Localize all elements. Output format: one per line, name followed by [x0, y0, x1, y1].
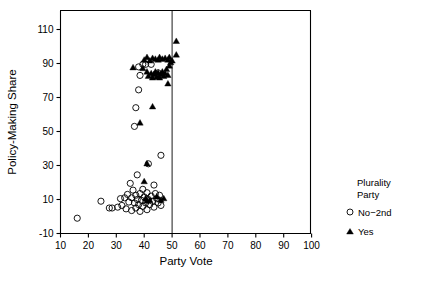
legend-label-no2nd: No−2nd — [358, 207, 392, 218]
y-tick-label: 70 — [42, 92, 54, 103]
x-tick-label: 30 — [111, 240, 123, 251]
series-no2nd-points — [74, 61, 164, 221]
data-point-no2nd — [119, 202, 125, 208]
x-tick-label: 20 — [83, 240, 95, 251]
data-point-yes — [149, 103, 155, 109]
x-tick-label: 80 — [250, 240, 262, 251]
y-tick-label: 50 — [42, 126, 54, 137]
data-point-yes — [173, 38, 179, 44]
data-point-yes — [173, 52, 179, 58]
y-axis-title: Policy-Making Share — [6, 69, 18, 174]
plot-canvas: 102030405060708090100 -101030507090110 P… — [0, 0, 421, 291]
data-point-yes — [137, 120, 143, 126]
data-point-no2nd — [117, 196, 123, 202]
x-axis-ticks: 102030405060708090100 — [55, 234, 320, 251]
x-tick-label: 40 — [139, 240, 151, 251]
data-point-no2nd — [127, 180, 133, 186]
legend-marker-no2nd-icon — [347, 209, 353, 215]
y-tick-label: 110 — [38, 24, 54, 35]
data-point-no2nd — [74, 215, 80, 221]
y-tick-label: -10 — [39, 228, 54, 239]
y-axis-ticks: -101030507090110 — [38, 24, 61, 239]
data-point-no2nd — [134, 172, 140, 178]
y-tick-label: 30 — [42, 160, 54, 171]
data-point-no2nd — [136, 87, 142, 93]
y-tick-label: 10 — [42, 194, 54, 205]
x-tick-label: 10 — [55, 240, 67, 251]
data-point-no2nd — [131, 123, 137, 129]
x-tick-label: 60 — [194, 240, 206, 251]
legend-marker-yes-icon — [347, 229, 354, 235]
legend: Plurality Party No−2nd Yes — [347, 177, 392, 237]
scatter-plot-figure: 102030405060708090100 -101030507090110 P… — [0, 0, 421, 291]
x-tick-label: 100 — [303, 240, 320, 251]
data-point-no2nd — [151, 182, 157, 188]
data-point-yes — [141, 178, 147, 184]
data-point-no2nd — [133, 105, 139, 111]
x-tick-label: 50 — [167, 240, 179, 251]
x-tick-label: 90 — [278, 240, 290, 251]
x-tick-label: 70 — [222, 240, 234, 251]
x-axis-title: Party Vote — [159, 255, 212, 267]
data-point-no2nd — [137, 72, 143, 78]
legend-label-yes: Yes — [358, 226, 374, 237]
legend-title-line2: Party — [357, 189, 379, 200]
data-point-no2nd — [158, 152, 164, 158]
data-point-no2nd — [98, 198, 104, 204]
legend-title-line1: Plurality — [357, 177, 391, 188]
y-tick-label: 90 — [42, 58, 54, 69]
data-point-yes — [165, 80, 171, 86]
